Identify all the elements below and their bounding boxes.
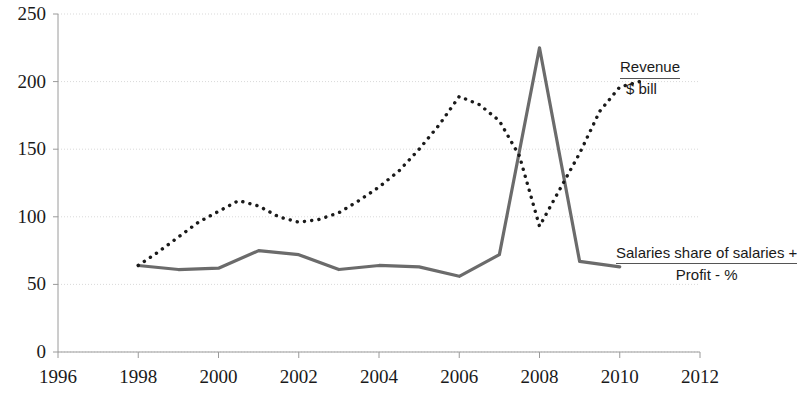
- revenue-label-line2: $ bill: [620, 79, 680, 99]
- salaries-label-line2: of salaries +: [716, 244, 797, 261]
- y-axis-tick-label: 150: [0, 138, 46, 160]
- y-axis-tick-label: 0: [0, 341, 46, 363]
- y-axis-tick-label: 50: [0, 273, 46, 295]
- y-axis-tick-label: 100: [0, 206, 46, 228]
- x-axis-tick-label: 2008: [505, 366, 575, 388]
- y-axis-ticks: [53, 14, 58, 352]
- x-axis-tick-label: 2012: [665, 366, 735, 388]
- revenue-series-label: Revenue $ bill: [620, 57, 680, 99]
- gridlines: [58, 14, 700, 352]
- x-axis-tick-label: 1998: [103, 366, 173, 388]
- y-axis-tick-label: 250: [0, 3, 46, 25]
- x-axis-tick-label: 2004: [344, 366, 414, 388]
- salaries-share-series-label: Salaries share of salaries + Profit - %: [616, 243, 797, 285]
- x-axis-tick-label: 2000: [184, 366, 254, 388]
- x-axis-ticks: [58, 352, 700, 358]
- x-axis-tick-label: 2002: [264, 366, 334, 388]
- x-axis-tick-label: 2010: [585, 366, 655, 388]
- x-axis-tick-label: 1996: [23, 366, 93, 388]
- axes: [58, 14, 700, 352]
- x-axis-tick-label: 2006: [424, 366, 494, 388]
- y-axis-tick-label: 200: [0, 71, 46, 93]
- salaries-label-line1: Salaries share: [616, 244, 712, 261]
- salaries-label-line3: Profit - %: [616, 263, 797, 285]
- revenue-label-line1: Revenue: [620, 57, 680, 79]
